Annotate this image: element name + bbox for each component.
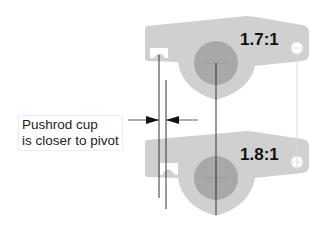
ratio-label-top: 1.7:1	[240, 30, 279, 50]
ratio-label-bottom: 1.8:1	[240, 145, 279, 165]
offset-dimension	[128, 116, 198, 124]
callout-line-2: is closer to pivot	[22, 133, 119, 149]
callout-line-1: Pushrod cup	[22, 117, 119, 133]
callout-box: Pushrod cup is closer to pivot	[18, 115, 123, 151]
rocker-arm-top	[145, 16, 309, 100]
rocker-arm-bottom	[145, 131, 309, 216]
